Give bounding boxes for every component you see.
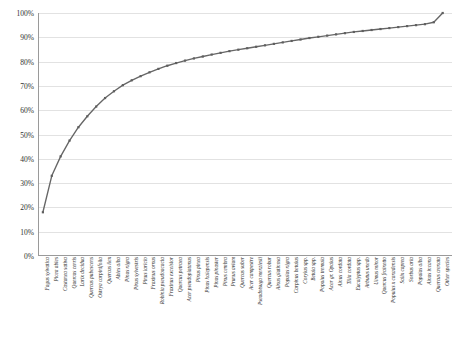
y-tick-label: 90% [20,33,34,42]
data-point-marker [228,50,230,52]
x-tick-label: Abies alba [116,257,121,280]
data-point-marker [388,27,390,29]
data-point-marker [131,79,133,81]
data-point-marker [344,32,346,34]
y-tick-label: 0% [24,252,34,261]
x-tick-label: Acer gr. Opalus [329,257,334,290]
x-tick-label: Pinus halepensis [205,257,210,293]
data-point-marker [219,52,221,54]
data-point-marker [211,53,213,55]
data-point-marker [371,29,373,31]
x-tick-label: Other species [445,257,450,286]
data-point-marker [140,75,142,77]
x-tick-label: Populus nigra [285,257,290,287]
data-point-marker [442,12,444,14]
x-tick-label: Ostrya carpinifolia [98,257,103,298]
x-axis-labels: Fagus sylvaticaPicea abiesCastanea sativ… [38,257,452,348]
x-tick-label: Quercus cerris [72,257,77,288]
x-tick-label: Fraxinus excelsior [169,257,174,297]
x-tick-label: Quercus robur [267,257,272,288]
y-tick-label: 100% [17,9,35,18]
x-tick-label: Ulmus minor [374,257,379,285]
x-tick-label: Pinus cembra [223,257,228,286]
x-tick-label: Quercus suber [240,257,245,288]
data-point-marker [193,57,195,59]
data-point-marker [282,41,284,43]
x-tick-label: Picea abies [54,257,59,282]
cumulative-species-chart: 0%10%20%30%40%50%60%70%80%90%100% Fagus … [0,0,460,348]
data-point-marker [113,90,115,92]
x-tick-label: Pinus pinaster [214,257,219,288]
data-point-marker [42,211,44,213]
x-tick-label: Alnus cordata [338,257,343,287]
data-point-marker [255,46,257,48]
data-point-marker [424,23,426,25]
x-tick-label: Pinus nigra [125,257,130,282]
x-tick-label: Arbutus unedo [365,257,370,288]
x-tick-label: Pinus laricio [143,257,148,285]
data-point-marker [406,25,408,27]
x-tick-label: Populus x canadensis [391,257,396,303]
data-point-marker [246,47,248,49]
x-tick-label: Larix decidua [80,257,85,287]
x-tick-label: Quercus ilex [107,257,112,284]
data-point-marker [95,105,97,107]
x-tick-label: Quercus frainetto [382,257,387,294]
data-point-marker [415,24,417,26]
x-tick-label: Carpinus betulus [294,257,299,293]
data-point-marker [379,28,381,30]
series-line-group [38,13,452,256]
x-tick-label: Tilia cordata [347,257,352,284]
data-point-marker [86,115,88,117]
x-tick-label: Alnus incana [427,257,432,285]
data-point-marker [68,139,70,141]
y-tick-label: 80% [20,57,34,66]
data-point-marker [60,155,62,157]
x-tick-label: Quercus pubescens [89,257,94,298]
y-tick-label: 10% [20,227,34,236]
data-point-marker [335,33,337,35]
data-point-marker [202,55,204,57]
y-tick-label: 20% [20,203,34,212]
y-tick-label: 70% [20,81,34,90]
x-tick-label: Quercus petraea [178,257,183,292]
x-tick-label: Pseudotsuga menziesii [258,257,263,305]
data-point-marker [175,62,177,64]
x-tick-label: Fraxinus ornus [151,257,156,290]
x-tick-label: Pinus pinea [196,257,201,282]
data-point-marker [166,65,168,67]
y-axis-labels: 0%10%20%30%40%50%60%70%80%90%100% [0,0,36,348]
data-point-marker [184,60,186,62]
data-point-marker [362,30,364,32]
y-tick-label: 60% [20,106,34,115]
data-point-marker [264,44,266,46]
cumulative-line [43,13,443,212]
y-tick-label: 40% [20,154,34,163]
x-tick-label: Pinus sylvestris [134,257,139,290]
x-tick-label: Salix caprea [400,257,405,283]
data-point-marker [148,71,150,73]
data-point-marker [299,38,301,40]
x-tick-label: Fagus sylvatica [45,257,50,290]
x-tick-label: Sorbus aria [409,257,414,282]
x-tick-label: Prunus avium [231,257,236,287]
x-tick-label: Acer campestre [249,257,254,290]
data-point-marker [353,31,355,33]
x-tick-label: Eucalyptus spp. [356,257,361,291]
data-point-marker [157,68,159,70]
y-tick-label: 30% [20,179,34,188]
x-tick-label: Alnus glutinosa [276,257,281,290]
x-tick-label: Corylus spp. [303,257,308,284]
data-point-marker [273,43,275,45]
data-point-marker [104,97,106,99]
data-point-marker [51,175,53,177]
data-point-marker [308,37,310,39]
data-point-marker [433,21,435,23]
data-point-marker [237,49,239,51]
data-point-marker [397,26,399,28]
x-tick-label: Betula spp. [311,257,316,281]
x-tick-label: Acer pseudoplatanus [187,257,192,302]
x-tick-label: Robinia pseudoacacia [160,257,165,304]
x-tick-label: Populus alba [418,257,423,285]
x-tick-label: Quercus crenata [436,257,441,292]
